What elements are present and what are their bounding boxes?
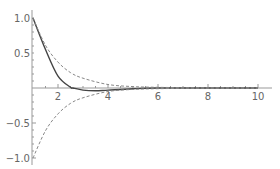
- line-chart: 246810 1.00.5−0.5−1.0: [0, 0, 280, 169]
- signal-line: [33, 18, 258, 91]
- y-tick-label: −1.0: [6, 153, 30, 164]
- x-tick-label: 6: [155, 91, 161, 102]
- envelope-line: [33, 18, 258, 88]
- x-tick-label: 2: [55, 91, 61, 102]
- x-tick-label: 4: [105, 91, 111, 102]
- y-tick-label: 0.5: [14, 48, 30, 59]
- x-tick-label: 8: [205, 91, 211, 102]
- y-tick-label: 1.0: [14, 13, 30, 24]
- envelope-line: [33, 88, 258, 158]
- y-ticks: 1.00.5−0.5−1.0: [6, 13, 36, 164]
- y-tick-label: −0.5: [6, 118, 30, 129]
- x-tick-label: 10: [252, 91, 265, 102]
